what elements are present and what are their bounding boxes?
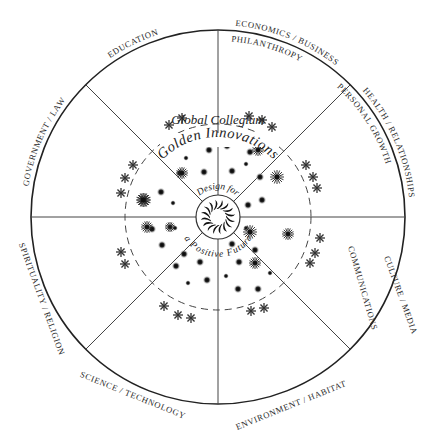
star-icon bbox=[186, 313, 196, 323]
dot-icon bbox=[267, 270, 273, 276]
dot-icon bbox=[183, 155, 189, 161]
dot-icon bbox=[235, 258, 244, 267]
dot-icon bbox=[243, 161, 249, 167]
dot-icon bbox=[196, 258, 205, 267]
starburst-icon bbox=[176, 167, 188, 179]
star-icon bbox=[259, 303, 269, 313]
star-icon bbox=[312, 183, 322, 193]
star-icon bbox=[116, 188, 126, 198]
dot-icon bbox=[223, 273, 229, 279]
dot-icon bbox=[180, 250, 189, 259]
dot-icon bbox=[200, 168, 209, 177]
dot-icon bbox=[251, 246, 260, 255]
star-icon bbox=[305, 258, 315, 268]
dot-icon bbox=[185, 280, 191, 286]
dot-icon bbox=[157, 188, 166, 197]
starburst-icon bbox=[136, 193, 150, 207]
star-icon bbox=[120, 173, 130, 183]
dot-icon bbox=[228, 167, 237, 176]
starburst-icon bbox=[270, 170, 284, 184]
dot-icon bbox=[170, 200, 176, 206]
star-icon bbox=[310, 248, 320, 258]
star-icon bbox=[267, 122, 277, 132]
star-icon bbox=[159, 301, 169, 311]
golden-innovations-diagram: Global Collegium Golden Innovations Desi… bbox=[0, 0, 433, 436]
label-government-law: GOVERNMENT / LAW bbox=[21, 95, 68, 187]
dot-icon bbox=[172, 262, 181, 271]
hub-circle bbox=[196, 195, 240, 239]
dot-icon bbox=[256, 173, 265, 182]
dot-icon bbox=[203, 276, 212, 285]
dot-icon bbox=[254, 285, 263, 294]
star-icon bbox=[116, 247, 126, 257]
starburst-icon bbox=[141, 221, 153, 233]
starburst-icon bbox=[165, 222, 175, 232]
svg-text:EDUCATION: EDUCATION bbox=[106, 27, 160, 60]
dot-icon bbox=[234, 285, 243, 294]
dot-icon bbox=[258, 196, 267, 205]
starburst-icon bbox=[249, 257, 261, 269]
star-icon bbox=[308, 172, 318, 182]
svg-text:GOVERNMENT / LAW: GOVERNMENT / LAW bbox=[21, 95, 68, 187]
star-icon bbox=[173, 310, 183, 320]
label-education: EDUCATION bbox=[106, 27, 160, 60]
star-icon bbox=[315, 233, 325, 243]
star-icon bbox=[246, 306, 256, 316]
star-icon bbox=[301, 160, 311, 170]
dot-icon bbox=[158, 241, 167, 250]
starburst-icon bbox=[282, 228, 294, 240]
star-icon bbox=[120, 259, 130, 269]
dot-icon bbox=[244, 201, 253, 210]
star-icon bbox=[128, 160, 138, 170]
